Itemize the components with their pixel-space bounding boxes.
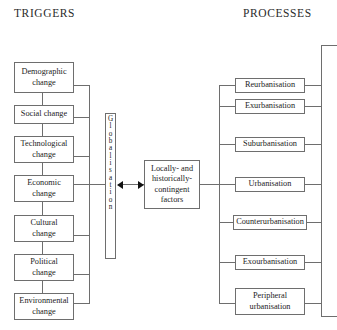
outgoing-bracket-spine [321, 45, 322, 316]
trigger-box-technological-change[interactable]: Technological change [14, 136, 74, 163]
process-bus-stub-3 [219, 144, 236, 145]
center-label-line3: contingent [146, 185, 198, 195]
trigger-label-line1: Economic [16, 178, 72, 188]
trigger-label-line2: change [16, 78, 72, 88]
process-box-suburbanisation[interactable]: Suburbanisation [235, 137, 305, 152]
process-bus-stub-7 [219, 303, 236, 304]
trigger-bus-stub-6 [73, 274, 90, 275]
trigger-chain-link-5 [42, 242, 43, 254]
process-box-exourbanisation[interactable]: Exourbanisation [235, 255, 305, 270]
trigger-box-economic-change[interactable]: Economic change [14, 175, 74, 202]
center-label-line4: factors [146, 195, 198, 205]
process-box-urbanisation[interactable]: Urbanisation [235, 177, 305, 192]
process-label-line1: Suburbanisation [237, 139, 303, 149]
process-bus-stub-1 [219, 85, 236, 86]
trigger-chain-link-2 [42, 124, 43, 136]
trigger-label-line2: change [16, 307, 72, 317]
trigger-label-line1: Social change [16, 109, 72, 119]
trigger-label-line1: Political [16, 257, 72, 267]
trigger-bus-stub-7 [73, 303, 90, 304]
process-out-stub-6 [305, 262, 322, 263]
processes-bus-spine [219, 85, 220, 303]
center-label-line1: Locally- and [146, 164, 198, 174]
bus-to-globalisation-line [89, 184, 106, 185]
process-out-stub-2 [305, 106, 322, 107]
trigger-bus-stub-3 [73, 156, 90, 157]
process-bus-stub-6 [219, 262, 236, 263]
triggers-column-heading: TRIGGERS [14, 7, 75, 19]
trigger-chain-link-4 [42, 202, 43, 215]
process-label-line1: Exurbanisation [237, 101, 303, 111]
trigger-label-line2: change [16, 229, 72, 239]
diagram-canvas: TRIGGERS PROCESSES Demographic change So… [0, 0, 337, 330]
process-out-stub-5 [307, 222, 322, 223]
trigger-box-demographic-change[interactable]: Demographic change [14, 62, 74, 93]
trigger-label-line2: change [16, 150, 72, 160]
process-box-exurbanisation[interactable]: Exurbanisation [235, 99, 305, 114]
central-box-locally-historically-contingent-factors[interactable]: Locally- and historically- contingent fa… [144, 160, 200, 209]
trigger-chain-link-3 [42, 163, 43, 175]
trigger-box-social-change[interactable]: Social change [14, 105, 74, 124]
trigger-chain-link-6 [42, 281, 43, 293]
trigger-label-line1: Technological [16, 139, 72, 149]
trigger-chain-link-1 [42, 93, 43, 105]
center-label-line2: historically- [146, 174, 198, 184]
trigger-label-line2: change [16, 189, 72, 199]
process-out-stub-3 [305, 144, 322, 145]
trigger-label-line1: Cultural [16, 218, 72, 228]
trigger-box-environmental-change[interactable]: Environmental change [14, 293, 74, 320]
trigger-label-line2: change [16, 268, 72, 278]
process-bus-stub-4 [219, 184, 236, 185]
process-box-reurbanisation[interactable]: Reurbanisation [235, 78, 305, 93]
processes-column-heading: PROCESSES [243, 7, 312, 19]
trigger-box-cultural-change[interactable]: Cultural change [14, 215, 74, 242]
process-label-line1: Peripheral [237, 291, 303, 301]
globalisation-bar[interactable]: G l o b a l i s a t i o n [105, 113, 116, 259]
outgoing-bracket-top-arm [321, 45, 337, 46]
globalisation-letter: n [106, 204, 115, 211]
arrow-head-left-icon [117, 181, 123, 189]
process-out-stub-1 [305, 85, 322, 86]
process-out-stub-7 [305, 303, 322, 304]
center-to-processes-line [200, 184, 220, 185]
trigger-bus-stub-1 [73, 85, 90, 86]
process-label-line1: Counterurbanisation [235, 217, 305, 227]
process-label-line1: Reurbanisation [237, 80, 303, 90]
trigger-label-line1: Environmental [16, 296, 72, 306]
trigger-bus-stub-4 [73, 184, 90, 185]
trigger-label-line1: Demographic [16, 67, 72, 77]
process-bus-stub-2 [219, 106, 236, 107]
trigger-bus-stub-5 [73, 235, 90, 236]
trigger-bus-stub-2 [73, 117, 90, 118]
process-label-line1: Urbanisation [237, 179, 303, 189]
process-box-peripheral-urbanisation[interactable]: Peripheral urbanisation [235, 288, 305, 315]
trigger-box-political-change[interactable]: Political change [14, 254, 74, 281]
process-label-line1: Exourbanisation [237, 257, 303, 267]
process-box-counterurbanisation[interactable]: Counterurbanisation [233, 215, 307, 230]
outgoing-bracket-bottom-arm [321, 316, 337, 317]
process-label-line2: urbanisation [237, 302, 303, 312]
process-out-stub-4 [305, 184, 322, 185]
